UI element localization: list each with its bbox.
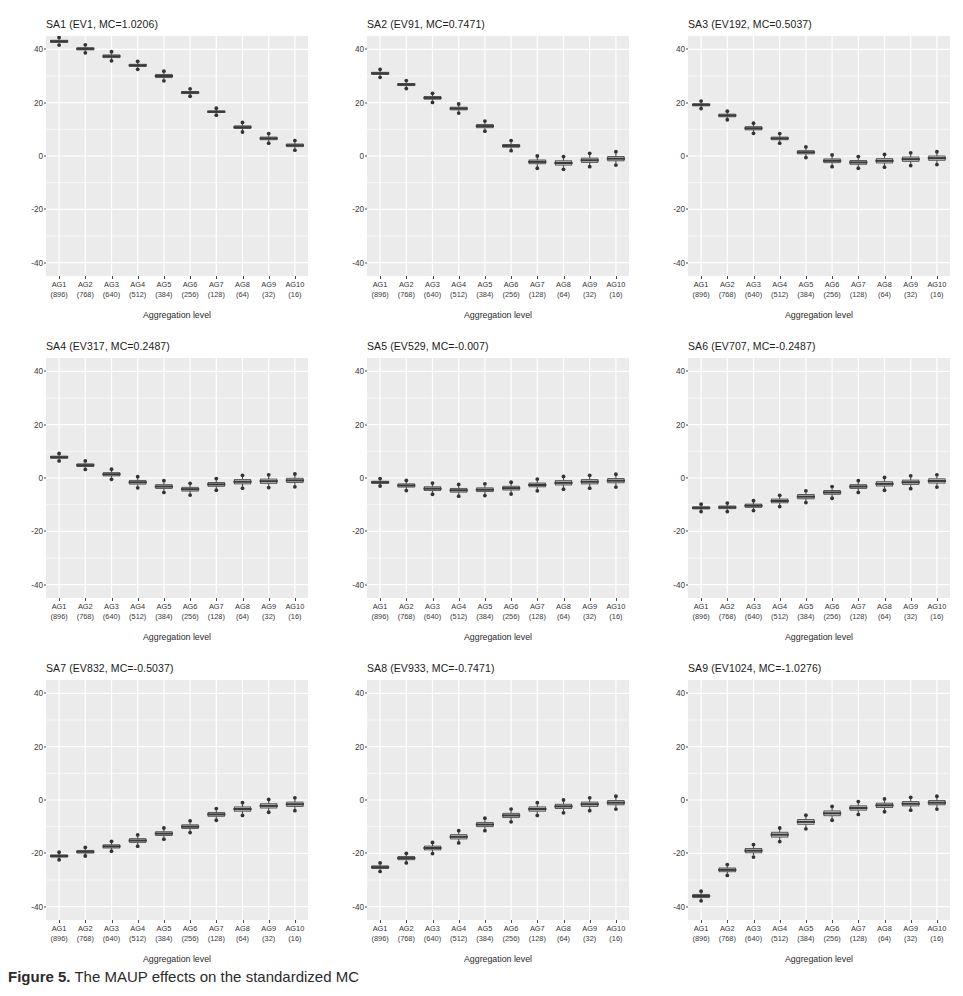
x-tick-count: (512)	[129, 612, 146, 622]
x-tick-label: AG3(640)	[103, 602, 120, 621]
x-tick-count: (384)	[155, 934, 172, 944]
x-tick-label: AG7(128)	[529, 280, 546, 299]
x-tick-mark	[433, 598, 434, 601]
panel-title: SA8 (EV933, MC=-0.7471)	[367, 662, 495, 674]
x-tick-label: AG10(16)	[285, 924, 304, 943]
x-tick-mark	[911, 276, 912, 279]
x-tick-level: AG10	[927, 280, 946, 290]
x-tick-count: (384)	[797, 934, 814, 944]
x-tick-level: AG3	[745, 602, 762, 612]
x-tick-count: (768)	[719, 290, 736, 300]
x-tick-mark	[243, 598, 244, 601]
boxplot-ag8	[554, 155, 572, 172]
x-tick-count: (512)	[129, 934, 146, 944]
x-tick-count: (768)	[719, 934, 736, 944]
boxplot-ag5	[476, 119, 494, 133]
x-tick-level: AG2	[398, 602, 415, 612]
boxplot-ag8	[554, 475, 572, 492]
x-tick-count: (896)	[50, 290, 67, 300]
y-tick-label: 0	[38, 474, 43, 483]
x-tick-level: AG5	[476, 924, 493, 934]
boxplot-ag3	[744, 843, 762, 859]
boxplot-ag2	[718, 863, 736, 878]
y-tick-label: -40	[352, 902, 364, 911]
boxplot-ag2	[718, 109, 736, 121]
x-tick-label: AG8(64)	[877, 602, 892, 621]
x-tick-count: (512)	[129, 290, 146, 300]
panel-sa7: SA7 (EV832, MC=-0.5037)Z-score of Moran …	[0, 644, 321, 966]
x-tick-mark	[485, 598, 486, 601]
caption-text: The MAUP effects on the standardized MC	[74, 968, 359, 985]
x-tick-label: AG2(768)	[77, 924, 94, 943]
x-tick-mark	[858, 276, 859, 279]
x-tick-level: AG3	[424, 924, 441, 934]
boxplot-ag2	[76, 846, 94, 858]
x-tick-level: AG8	[235, 280, 250, 290]
x-tick-label: AG2(768)	[719, 924, 736, 943]
x-tick-label: AG6(256)	[181, 602, 198, 621]
x-tick-count: (768)	[77, 934, 94, 944]
y-tick-label: -20	[31, 849, 43, 858]
boxplot-ag9	[902, 795, 920, 812]
plot-area	[688, 36, 950, 276]
x-tick-count: (896)	[692, 290, 709, 300]
x-tick-mark	[269, 276, 270, 279]
boxplot-ag7	[207, 477, 225, 493]
y-tick-label: 20	[676, 420, 685, 429]
x-tick-count: (512)	[771, 934, 788, 944]
x-tick-level: AG1	[50, 602, 67, 612]
x-tick-count: (640)	[103, 612, 120, 622]
x-tick-level: AG1	[371, 602, 388, 612]
x-tick-mark	[406, 598, 407, 601]
boxplot-ag7	[207, 807, 225, 823]
x-tick-level: AG9	[582, 924, 597, 934]
x-tick-level: AG10	[927, 602, 946, 612]
x-tick-label: AG7(128)	[850, 280, 867, 299]
x-tick-label: AG8(64)	[556, 924, 571, 943]
y-tick-label: 40	[34, 689, 43, 698]
boxplot-ag10	[928, 794, 946, 811]
boxplot-ag8	[233, 801, 251, 818]
panel-sa9: SA9 (EV1024, MC=-1.0276)Z-score of Moran…	[642, 644, 963, 966]
boxplot-ag2	[397, 79, 415, 91]
boxplot-ag1	[50, 452, 68, 463]
y-tick-label: 20	[355, 420, 364, 429]
plot-area	[688, 680, 950, 920]
y-tick-label: 40	[355, 45, 364, 54]
boxplot-ag2	[397, 479, 415, 493]
x-tick-label: AG10(16)	[606, 602, 625, 621]
x-tick-mark	[164, 598, 165, 601]
x-tick-level: AG10	[606, 924, 625, 934]
x-tick-count: (16)	[606, 290, 625, 300]
x-tick-mark	[806, 276, 807, 279]
x-tick-level: AG4	[450, 924, 467, 934]
x-tick-level: AG1	[692, 280, 709, 290]
x-tick-label: AG4(512)	[450, 280, 467, 299]
boxplot-ag10	[286, 139, 304, 152]
x-tick-count: (256)	[502, 612, 519, 622]
x-tick-label: AG5(384)	[797, 924, 814, 943]
x-tick-level: AG4	[771, 924, 788, 934]
x-tick-mark	[590, 276, 591, 279]
panel-title: SA9 (EV1024, MC=-1.0276)	[688, 662, 821, 674]
x-tick-mark	[701, 276, 702, 279]
boxplot-ag10	[928, 150, 946, 167]
x-tick-level: AG6	[181, 280, 198, 290]
plot-area	[46, 36, 308, 276]
x-tick-level: AG3	[103, 602, 120, 612]
x-tick-mark	[459, 920, 460, 923]
panel-title: SA6 (EV707, MC=-0.2487)	[688, 340, 816, 352]
x-tick-label: AG8(64)	[556, 280, 571, 299]
boxplot-ag5	[155, 69, 173, 82]
x-tick-mark	[911, 598, 912, 601]
panel-title: SA1 (EV1, MC=1.0206)	[46, 18, 158, 30]
x-tick-level: AG5	[797, 924, 814, 934]
x-tick-level: AG9	[261, 602, 276, 612]
plot-area-wrapper: 40200-20-40AG1(896)AG2(768)AG3(640)AG4(5…	[688, 36, 950, 276]
x-tick-label: AG1(896)	[692, 924, 709, 943]
caption-label: Figure 5.	[8, 968, 71, 985]
x-tick-level: AG3	[103, 280, 120, 290]
y-tick-label: 20	[34, 98, 43, 107]
panel-grid: SA1 (EV1, MC=1.0206)Z-score of Moran coe…	[0, 0, 963, 966]
x-tick-mark	[937, 276, 938, 279]
